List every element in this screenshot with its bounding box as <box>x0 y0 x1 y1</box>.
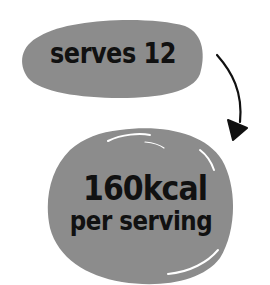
calories-label: 160kcal <box>70 167 220 207</box>
serves-label: serves 12 <box>48 38 178 70</box>
curved-arrow-down-icon <box>217 55 240 122</box>
per-serving-label: per serving <box>66 206 216 236</box>
arrow-head-icon <box>228 120 247 140</box>
